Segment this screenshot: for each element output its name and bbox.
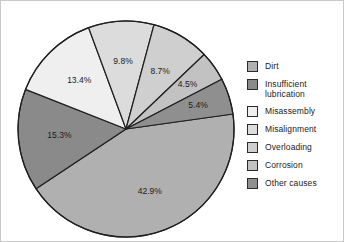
pie-slice-value-label: 4.5% — [178, 79, 198, 89]
legend-item[interactable]: Dirt — [247, 61, 343, 72]
pie-slice-value-label: 42.9% — [138, 186, 163, 196]
legend-item[interactable]: Misalignment — [247, 124, 343, 135]
pie-slices-group — [18, 21, 234, 237]
legend-item-label: Corrosion — [265, 160, 303, 170]
legend-item-label: Dirt — [265, 61, 279, 71]
legend-item-label: Other causes — [265, 178, 317, 188]
legend-item[interactable]: Overloading — [247, 142, 343, 153]
chart-legend: DirtInsufficient lubricationMisassemblyM… — [247, 61, 343, 196]
pie-chart-plot-area: 42.9%15.3%13.4%9.8%8.7%4.5%5.4% — [1, 1, 237, 242]
legend-swatch-icon — [247, 106, 258, 117]
legend-swatch-icon — [247, 61, 258, 72]
pie-slice-value-label: 15.3% — [47, 130, 72, 140]
legend-item[interactable]: Misassembly — [247, 106, 343, 117]
pie-chart-svg: 42.9%15.3%13.4%9.8%8.7%4.5%5.4% — [1, 1, 237, 242]
pie-slice-value-label: 8.7% — [151, 66, 171, 76]
legend-item[interactable]: Insufficient lubrication — [247, 79, 343, 99]
legend-item[interactable]: Other causes — [247, 178, 343, 189]
legend-item-label: Misalignment — [265, 124, 316, 134]
legend-item-label: Overloading — [265, 142, 312, 152]
legend-swatch-icon — [247, 160, 258, 171]
legend-item-label: Misassembly — [265, 106, 315, 116]
legend-item-label: Insufficient lubrication — [265, 79, 307, 99]
legend-swatch-icon — [247, 178, 258, 189]
legend-swatch-icon — [247, 79, 258, 90]
pie-slice-value-label: 5.4% — [188, 100, 208, 110]
legend-swatch-icon — [247, 124, 258, 135]
pie-chart-figure: 42.9%15.3%13.4%9.8%8.7%4.5%5.4% DirtInsu… — [0, 0, 344, 242]
pie-slice-value-label: 13.4% — [67, 75, 92, 85]
legend-swatch-icon — [247, 142, 258, 153]
legend-item[interactable]: Corrosion — [247, 160, 343, 171]
pie-slice-value-label: 9.8% — [113, 56, 133, 66]
